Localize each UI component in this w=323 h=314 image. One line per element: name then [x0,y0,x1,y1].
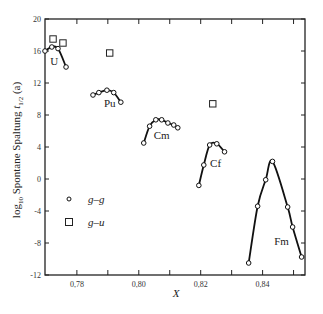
legend-gg-label: g–g [88,193,105,205]
gg-marker [290,225,295,230]
gg-marker [299,255,304,260]
gg-marker [285,205,290,210]
y-axis-label: log10 Spontane Spaltung t1/2 (a) [10,81,25,218]
legend-gu-label: g–u [88,216,105,228]
series-line [249,161,302,263]
x-tick-label: 0,80 [132,280,146,289]
plot-border [45,19,305,275]
gg-marker [201,163,206,168]
series-curves [45,46,302,263]
gg-marker [222,150,227,155]
y-tick-label: 4 [37,143,41,152]
gg-marker [255,204,260,209]
gg-marker [119,100,124,105]
y-tick-label: -4 [34,207,41,216]
gg-marker [147,124,152,129]
gg-marker [64,65,69,70]
element-label: Pu [104,97,116,109]
legend-circle-marker [67,197,71,201]
gg-marker [91,93,96,98]
gu-marker [50,36,56,42]
element-annotations: UPuCmCfFm [50,55,289,247]
y-tick-label: 0 [37,175,41,184]
y-tick-label: -12 [30,271,41,280]
axis-ticks: -12-8-40481216200,780,800,820,84 [30,15,305,289]
y-tick-label: 12 [33,79,41,88]
gg-marker [246,261,251,266]
gg-marker [56,46,61,51]
gu-marker [60,40,66,46]
element-label: Cf [210,157,221,169]
gg-marker [214,142,219,147]
gg-marker [166,121,171,126]
element-label: Fm [274,235,289,247]
x-tick-label: 0,78 [70,280,84,289]
element-label: Cm [154,129,170,141]
y-tick-label: -8 [34,239,41,248]
gg-marker [50,45,55,50]
gg-marker [197,183,202,188]
legend: g–gg–u [66,193,106,228]
gg-marker [111,90,116,95]
gu-marker [106,50,112,56]
element-label: U [50,55,58,67]
gu-marker [210,101,216,107]
legend-square-marker [66,219,73,226]
y-tick-label: 8 [37,111,41,120]
x-axis-label: X [172,287,181,299]
gg-marker [43,49,48,54]
gg-marker [207,143,212,148]
gg-marker [159,118,164,123]
y-tick-label: 16 [33,47,41,56]
gg-marker [105,88,110,93]
x-tick-label: 0,82 [194,280,208,289]
fission-halflife-chart: -12-8-40481216200,780,800,820,84 UPuCmCf… [0,0,323,314]
gg-marker [175,126,180,131]
gg-marker [154,118,159,123]
gg-marker [141,141,146,146]
series-markers [43,36,304,266]
gg-marker [97,90,102,95]
y-tick-label: 20 [33,15,41,24]
gg-marker [270,159,275,164]
x-tick-label: 0,84 [256,280,270,289]
plot-frame [45,19,305,275]
gg-marker [263,178,268,183]
